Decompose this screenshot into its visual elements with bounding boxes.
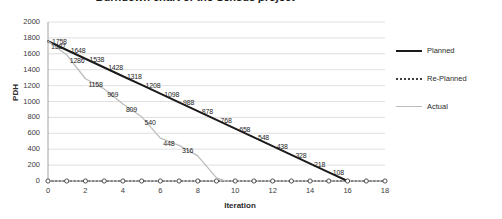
y-axis-tick-label: 1600 bbox=[6, 49, 40, 58]
data-label: 108 bbox=[333, 169, 344, 176]
legend-line-replanned-icon bbox=[396, 73, 422, 83]
y-axis-tick-label: 600 bbox=[6, 128, 40, 137]
data-label: 1158 bbox=[88, 81, 102, 88]
data-label: 658 bbox=[239, 126, 250, 133]
data-label: 1318 bbox=[127, 73, 142, 80]
y-axis-tick-label: 1000 bbox=[6, 97, 40, 106]
x-axis-tick-label: 10 bbox=[223, 186, 247, 195]
legend-line-planned-icon bbox=[396, 45, 422, 55]
legend-label-actual: Actual bbox=[427, 102, 448, 111]
y-axis-tick-label: 1800 bbox=[6, 33, 40, 42]
data-label: 768 bbox=[221, 117, 232, 124]
legend-item-planned: Planned bbox=[396, 36, 500, 64]
data-label: 448 bbox=[163, 140, 174, 147]
x-axis-tick-label: 4 bbox=[111, 186, 135, 195]
data-label: 438 bbox=[277, 143, 288, 150]
x-axis-tick-label: 0 bbox=[36, 186, 60, 195]
data-label: 218 bbox=[314, 161, 325, 168]
x-axis-title: Iteration bbox=[180, 201, 300, 210]
gridlines bbox=[48, 22, 385, 181]
data-label: 1538 bbox=[89, 56, 104, 63]
data-label: 328 bbox=[295, 152, 306, 159]
burndown-chart: Burndown chart of the Sensus project PDH… bbox=[0, 0, 502, 219]
legend-item-actual: Actual bbox=[396, 92, 500, 120]
data-label: 316 bbox=[182, 147, 193, 154]
y-axis-tick-label: 1400 bbox=[6, 65, 40, 74]
data-label: 1208 bbox=[146, 82, 161, 89]
legend-line-actual-icon bbox=[396, 101, 422, 111]
data-label: 1587 bbox=[51, 43, 66, 50]
data-label: 1286 bbox=[70, 57, 85, 64]
y-axis-tick-label: 0 bbox=[6, 176, 40, 185]
legend-label-planned: Planned bbox=[427, 46, 455, 55]
chart-legend: Planned Re-Planned Actual bbox=[396, 36, 500, 120]
data-label: 1648 bbox=[71, 47, 86, 54]
x-axis-tick-label: 14 bbox=[298, 186, 322, 195]
data-label: 1098 bbox=[164, 91, 179, 98]
data-label: 988 bbox=[183, 99, 194, 106]
y-axis-tick-label: 200 bbox=[6, 160, 40, 169]
y-axis-tick-label: 800 bbox=[6, 112, 40, 121]
y-axis-tick-label: 2000 bbox=[6, 17, 40, 26]
x-axis-tick-label: 16 bbox=[336, 186, 360, 195]
data-label: 1428 bbox=[108, 64, 123, 71]
legend-label-replanned: Re-Planned bbox=[427, 74, 467, 83]
data-label: 969 bbox=[107, 91, 118, 98]
x-axis-tick-label: 6 bbox=[148, 186, 172, 195]
data-label: 878 bbox=[202, 108, 213, 115]
x-axis-tick-label: 12 bbox=[261, 186, 285, 195]
data-label: 809 bbox=[126, 106, 137, 113]
data-label: 548 bbox=[258, 134, 269, 141]
x-axis-tick-label: 8 bbox=[186, 186, 210, 195]
x-axis-tick-label: 18 bbox=[373, 186, 397, 195]
legend-item-replanned: Re-Planned bbox=[396, 64, 500, 92]
x-axis-tick-label: 2 bbox=[73, 186, 97, 195]
y-axis-title: PDH bbox=[11, 70, 20, 116]
data-label: 540 bbox=[145, 119, 156, 126]
y-axis-tick-label: 400 bbox=[6, 144, 40, 153]
y-axis-tick-label: 1200 bbox=[6, 81, 40, 90]
